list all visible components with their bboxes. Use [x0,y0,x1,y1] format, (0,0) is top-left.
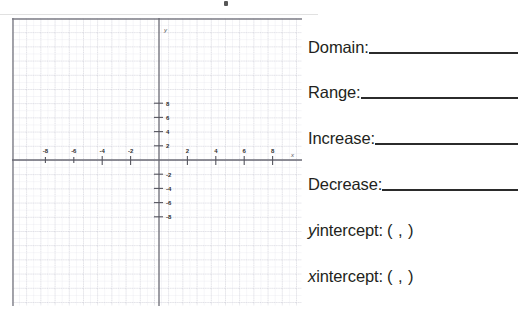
y-tick-label: -6 [166,200,172,206]
domain-label: Domain: [308,38,369,56]
increase-answer-blank[interactable] [375,143,518,145]
increase-label: Increase: [308,129,375,147]
prompt-row-increase[interactable]: Increase: [308,117,518,147]
x-intercept-variable: x [308,267,316,285]
coordinate-plane-svg[interactable]: -8 -6 -4 -2 2 4 6 8 8 6 4 2 -2 -4 -6 -8 [12,18,302,306]
prompt-row-domain[interactable]: Domain: [308,26,518,56]
x-tick-label: -6 [71,148,77,154]
major-gridlines [13,19,302,306]
decrease-label: Decrease: [308,175,382,193]
prompt-row-y-intercept[interactable]: y intercept: ( , ) [308,209,518,239]
y-intercept-variable: y [308,221,316,239]
y-tick-label: -4 [166,186,172,192]
coordinate-graph[interactable]: -8 -6 -4 -2 2 4 6 8 8 6 4 2 -2 -4 -6 -8 [12,18,302,306]
range-label: Range: [308,83,361,101]
y-tick-label: -8 [166,214,172,220]
x-intercept-label: intercept: [316,267,383,285]
x-tick-label: -8 [43,148,49,154]
y-intercept-label: intercept: [316,221,383,239]
worksheet-page: -8 -6 -4 -2 2 4 6 8 8 6 4 2 -2 -4 -6 -8 [0,0,518,317]
prompt-row-decrease[interactable]: Decrease: [308,163,518,193]
cropped-title-descender-mark [224,1,228,6]
prompt-list: Domain: Range: Increase: Decrease: y int… [308,0,518,317]
x-intercept-ordered-pair[interactable]: ( , ) [387,267,414,285]
domain-answer-blank[interactable] [369,52,518,54]
y-tick-label: -2 [166,172,172,178]
x-tick-label: -2 [128,148,134,154]
x-tick-label: -4 [100,148,106,154]
y-intercept-ordered-pair[interactable]: ( , ) [387,221,414,239]
decrease-answer-blank[interactable] [382,189,518,191]
cropped-title-hairline [0,14,318,15]
prompt-row-x-intercept[interactable]: x intercept: ( , ) [308,255,518,285]
range-answer-blank[interactable] [361,97,518,99]
prompt-row-range[interactable]: Range: [308,71,518,101]
